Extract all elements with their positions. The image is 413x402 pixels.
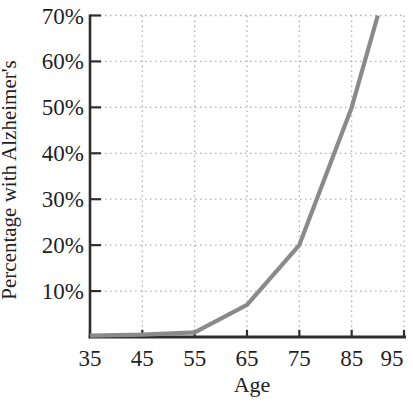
- y-tick-label: 30%: [42, 187, 84, 212]
- line-chart: 10%20%30%40%50%60%70%35455565758595 Perc…: [0, 0, 413, 402]
- x-tick-label: 75: [288, 346, 311, 371]
- y-tick-label: 20%: [42, 233, 84, 258]
- y-tick-label: 10%: [42, 279, 84, 304]
- x-tick-label: 35: [79, 346, 102, 371]
- alzheimers-prevalence-figure: 10%20%30%40%50%60%70%35455565758595 Perc…: [0, 0, 413, 402]
- x-tick-label: 95: [381, 346, 404, 371]
- y-axis-title: Percentage with Alzheimer's: [0, 60, 21, 299]
- chart-generated-layer: 10%20%30%40%50%60%70%35455565758595: [42, 4, 406, 372]
- y-tick-label: 40%: [42, 141, 84, 166]
- x-tick-label: 85: [340, 346, 363, 371]
- x-tick-label: 65: [236, 346, 259, 371]
- data-line: [90, 16, 378, 336]
- y-tick-label: 60%: [42, 49, 84, 74]
- x-tick-label: 55: [183, 346, 206, 371]
- y-tick-label: 50%: [42, 95, 84, 120]
- x-tick-label: 45: [131, 346, 154, 371]
- x-axis-title: Age: [234, 372, 271, 397]
- y-tick-label: 70%: [42, 4, 84, 29]
